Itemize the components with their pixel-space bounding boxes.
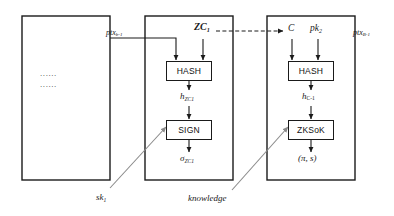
ptx-B1-label: ptxB-1 — [353, 29, 370, 38]
middle-sign-box[interactable]: SIGN — [166, 120, 212, 140]
zc1-subscript: 1 — [207, 26, 210, 33]
left-ellipsis-row-1: ...... — [40, 69, 57, 78]
knowledge-label: knowledge — [188, 194, 227, 203]
ptx-b1-subscript: b-1 — [116, 32, 123, 37]
ptx-B1-subscript: B-1 — [363, 32, 370, 37]
secret-key-base: sk — [96, 192, 104, 202]
zc1-base: ZC — [194, 21, 207, 32]
right-zksok-box[interactable]: ZKSoK — [288, 120, 334, 140]
h-zc1-subscript: ZC1 — [185, 96, 195, 102]
sigma-zc1-subscript: ZC1 — [184, 158, 194, 164]
middle-hash-label: HASH — [177, 66, 201, 76]
ptx-b1-connector — [110, 38, 176, 60]
ptx-B1-base: ptx — [353, 28, 363, 37]
diagram-canvas: ...... ...... ptxb-1 ZC1 HASH hZC1 SIGN … — [0, 0, 394, 216]
left-column-frame — [22, 16, 110, 180]
ptx-b1-label: ptxb-1 — [106, 29, 122, 38]
middle-sign-label: SIGN — [178, 125, 200, 135]
h-zc1-label: hZC1 — [180, 92, 194, 102]
ptx-b1-base: ptx — [106, 28, 116, 37]
c-input-label: C — [288, 24, 294, 34]
secret-key-label: sk1 — [96, 193, 106, 203]
zc1-label: ZC1 — [194, 22, 210, 33]
pi-s-output-label: (π, s) — [298, 154, 317, 163]
pi-s-output-text: (π, s) — [298, 153, 317, 163]
pk2-input-base: pk — [310, 23, 319, 33]
middle-hash-box[interactable]: HASH — [166, 61, 212, 81]
sk1-to-sign-connector — [110, 127, 166, 188]
h-c1-subscript: C-1 — [307, 95, 315, 101]
right-hash-box[interactable]: HASH — [288, 61, 334, 81]
pk2-input-subscript: 2 — [319, 28, 322, 34]
c-input-base: C — [288, 23, 294, 33]
h-c1-label: hC-1 — [302, 92, 315, 102]
pk2-input-label: pk2 — [310, 24, 322, 35]
right-zksok-label: ZKSoK — [297, 125, 325, 135]
sigma-zc1-label: σZC1 — [180, 154, 194, 164]
secret-key-subscript: 1 — [104, 197, 107, 203]
left-ellipsis-row-2: ...... — [40, 80, 57, 89]
right-hash-label: HASH — [299, 66, 323, 76]
